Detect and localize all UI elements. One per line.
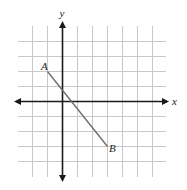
x-axis-right-arrow-icon <box>162 98 169 105</box>
y-axis-label: y <box>59 7 65 19</box>
coordinate-plane-svg: x y A B <box>0 0 187 190</box>
y-axis-down-arrow-icon <box>59 175 66 182</box>
y-axis-up-arrow-icon <box>59 21 66 28</box>
point-a-label: A <box>40 60 48 72</box>
x-axis-label: x <box>171 95 177 107</box>
point-b-label: B <box>109 142 116 154</box>
coordinate-plane: x y A B <box>0 0 187 190</box>
x-axis <box>14 98 169 105</box>
x-axis-left-arrow-icon <box>14 98 21 105</box>
